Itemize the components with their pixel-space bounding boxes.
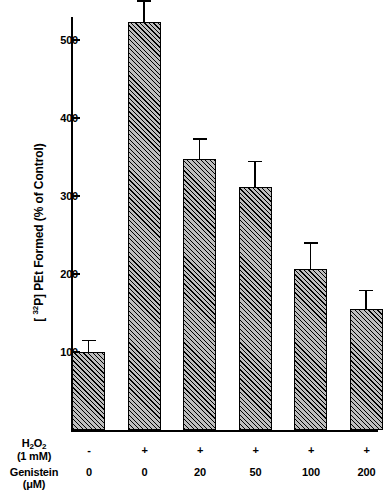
error-bar-cap-1: [82, 340, 96, 342]
y-tick-label-500: 500: [60, 35, 78, 46]
h2o2-cell-2: +: [128, 444, 162, 456]
h2o2-cell-1: -: [72, 444, 106, 456]
h2o2-cell-5: +: [294, 444, 328, 456]
bar-5: [294, 269, 327, 430]
bar-1: [72, 352, 105, 430]
bar-3: [183, 159, 216, 430]
plot-area: [ 32P] PEt Formed (% of Control) 1002003…: [0, 0, 390, 490]
genistein-cell-6: 200: [350, 466, 384, 478]
figure-bar-chart: [ 32P] PEt Formed (% of Control) 1002003…: [0, 0, 390, 490]
genistein-cell-2: 0: [128, 466, 162, 478]
h2o2-formula: H2O2: [22, 437, 47, 449]
condition-row-label-h2o2: H2O2 (1 mM): [0, 437, 68, 462]
h2o2-cell-4: +: [239, 444, 273, 456]
genistein-name: Genistein: [10, 466, 58, 478]
condition-row-label-genistein: Genistein (μM): [0, 466, 68, 490]
y-tick-label-400: 400: [60, 113, 78, 124]
error-bar-stem-4: [254, 161, 256, 187]
h2o2-concentration: (1 mM): [17, 450, 51, 462]
y-tick-label-200: 200: [60, 269, 78, 280]
error-bar-stem-5: [310, 242, 312, 269]
error-bar-stem-6: [365, 290, 367, 310]
error-bar-stem-2: [143, 0, 145, 22]
h2o2-cell-6: +: [350, 444, 384, 456]
bar-4: [239, 187, 272, 430]
genistein-unit: (μM): [23, 478, 45, 490]
genistein-cell-4: 50: [239, 466, 273, 478]
bar-2: [128, 22, 161, 430]
error-bar-cap-5: [304, 242, 318, 244]
error-bar-cap-6: [359, 290, 373, 292]
genistein-cell-1: 0: [72, 466, 106, 478]
error-bar-cap-3: [193, 138, 207, 140]
error-bar-stem-3: [199, 138, 201, 158]
error-bar-cap-4: [248, 161, 262, 163]
y-axis-title-suffix: P] PEt Formed (% of Control): [32, 143, 46, 306]
y-axis-title-prefix: [: [32, 315, 46, 322]
x-axis-line: [71, 430, 378, 432]
y-axis-title-superscript: 32: [31, 306, 40, 315]
h2o2-cell-3: +: [183, 444, 217, 456]
error-bar-stem-1: [88, 340, 90, 352]
error-bar-cap-2: [137, 0, 151, 2]
bar-6: [350, 309, 383, 430]
y-axis-title: [ 32P] PEt Formed (% of Control): [31, 83, 46, 383]
genistein-cell-5: 100: [294, 466, 328, 478]
genistein-cell-3: 20: [183, 466, 217, 478]
y-tick-label-300: 300: [60, 191, 78, 202]
